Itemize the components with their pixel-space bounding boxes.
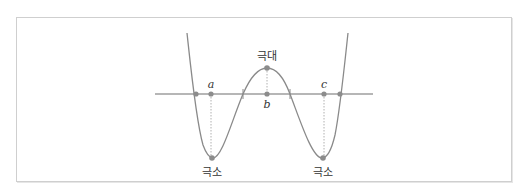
root-point-1: [193, 91, 198, 96]
local-minimum-left-point: [209, 155, 215, 161]
label-maximum: 극대: [257, 50, 277, 63]
label-minimum-right: 극소: [313, 166, 333, 179]
local-minimum-right-point: [320, 155, 326, 161]
label-b: b: [263, 98, 270, 111]
point-b-axis: [264, 91, 269, 96]
local-maximum-point: [264, 65, 270, 71]
function-graph: 극대 a b c 극소 극소: [0, 0, 528, 194]
root-point-4: [337, 91, 342, 96]
point-c-axis: [321, 91, 326, 96]
label-minimum-left: 극소: [202, 166, 222, 179]
label-a: a: [208, 78, 215, 91]
point-a-axis: [208, 91, 213, 96]
label-c: c: [321, 78, 327, 91]
